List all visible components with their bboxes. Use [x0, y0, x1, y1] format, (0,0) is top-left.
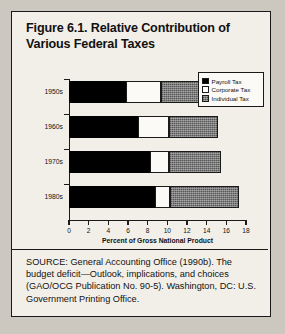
x-tick-label: 0 — [60, 227, 78, 234]
x-tick-mark — [167, 220, 168, 225]
legend-item-payroll-tax: Payroll Tax — [202, 78, 260, 85]
x-tick-mark — [186, 220, 187, 225]
bar-row-1980s — [12, 186, 268, 208]
x-tick-mark — [127, 220, 128, 225]
legend-item-corporate-tax: Corporate Tax — [202, 86, 260, 93]
legend-label: Individual Tax — [212, 95, 249, 102]
x-tick-mark — [147, 220, 148, 225]
x-tick-mark — [108, 220, 109, 225]
x-tick-label: 8 — [139, 227, 157, 234]
bar-segment-payroll-1970s — [69, 151, 150, 173]
x-tick-label: 10 — [158, 227, 176, 234]
hatched-gray-swatch-icon — [202, 95, 209, 102]
y-tick-mark — [64, 184, 70, 185]
figure-card: Figure 6.1. Relative Contribution of Var… — [11, 11, 271, 317]
x-tick-label: 2 — [80, 227, 98, 234]
bar-segment-corporate-1970s — [150, 151, 170, 173]
legend-item-individual-tax: Individual Tax — [202, 95, 260, 102]
source-divider — [12, 249, 268, 250]
bar-row-1960s — [12, 116, 268, 138]
chart-plot-area: 024681012141618 1950s1960s1970s1980s Per… — [12, 68, 268, 246]
x-tick-label: 6 — [119, 227, 137, 234]
x-tick-label: 18 — [237, 227, 255, 234]
bar-segment-payroll-1980s — [69, 186, 155, 208]
figure-title: Figure 6.1. Relative Contribution of Var… — [26, 21, 254, 53]
bar-segment-individual-1980s — [170, 186, 239, 208]
y-tick-mark — [64, 79, 70, 80]
chart-legend: Payroll Tax Corporate Tax Individual Tax — [198, 72, 264, 107]
legend-label: Corporate Tax — [212, 86, 251, 93]
page-background: Figure 6.1. Relative Contribution of Var… — [0, 0, 285, 334]
y-tick-mark — [64, 114, 70, 115]
solid-black-swatch-icon — [202, 78, 209, 85]
bar-segment-individual-1960s — [169, 116, 218, 138]
x-axis-line — [69, 220, 246, 221]
open-white-swatch-icon — [202, 86, 209, 93]
source-note: SOURCE: General Accounting Office (1990b… — [26, 256, 258, 305]
x-tick-mark — [68, 220, 69, 225]
x-tick-mark — [226, 220, 227, 225]
y-tick-mark — [64, 149, 70, 150]
bar-segment-payroll-1960s — [69, 116, 138, 138]
bar-segment-individual-1970s — [169, 151, 221, 173]
x-tick-label: 12 — [178, 227, 196, 234]
bar-segment-corporate-1960s — [138, 116, 169, 138]
bar-segment-corporate-1950s — [126, 81, 161, 103]
bar-segment-payroll-1950s — [69, 81, 126, 103]
bar-row-1970s — [12, 151, 268, 173]
x-tick-label: 4 — [99, 227, 117, 234]
x-tick-label: 14 — [198, 227, 216, 234]
x-tick-mark — [245, 220, 246, 225]
legend-label: Payroll Tax — [212, 78, 242, 85]
x-tick-mark — [206, 220, 207, 225]
x-tick-label: 16 — [217, 227, 235, 234]
x-tick-mark — [88, 220, 89, 225]
bar-segment-corporate-1980s — [155, 186, 171, 208]
x-axis-title: Percent of Gross National Product — [69, 237, 246, 244]
